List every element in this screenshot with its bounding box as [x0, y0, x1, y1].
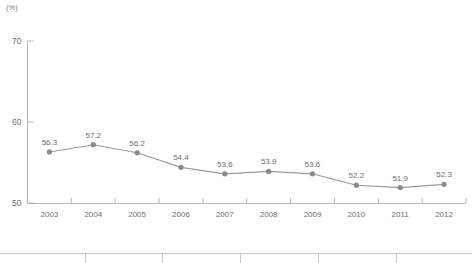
- data-point-marker: [47, 149, 52, 154]
- data-point-marker: [91, 142, 96, 147]
- x-tick-label: 2008: [260, 210, 278, 219]
- data-point-marker: [441, 182, 446, 187]
- data-point-marker: [266, 169, 271, 174]
- data-point-label: 54.4: [173, 153, 189, 162]
- x-tick-label: 2009: [304, 210, 322, 219]
- x-tick-label: 2012: [435, 210, 453, 219]
- data-point-label: 52.3: [436, 170, 452, 179]
- data-point-marker: [135, 150, 140, 155]
- series-line: [49, 145, 444, 188]
- data-point-label: 53.6: [305, 160, 321, 169]
- x-tick-label: 2003: [41, 210, 59, 219]
- data-point-label: 53.6: [217, 160, 233, 169]
- data-point-marker: [310, 171, 315, 176]
- data-point-label: 51.9: [392, 174, 408, 183]
- series-data-labels: 56.357.256.254.453.653.953.652.251.952.3: [42, 131, 453, 183]
- data-point-label: 56.3: [42, 138, 58, 147]
- y-axis-ticks: 506070: [12, 36, 33, 208]
- data-point-marker: [354, 183, 359, 188]
- data-point-marker: [398, 185, 403, 190]
- data-point-label: 56.2: [129, 139, 145, 148]
- y-tick-label: 70: [12, 36, 22, 46]
- x-tick-label: 2007: [216, 210, 234, 219]
- series-markers: [47, 142, 447, 190]
- x-axis-ticks: 2003200420052006200720082009201020112012: [41, 198, 466, 219]
- data-point-label: 57.2: [85, 131, 101, 140]
- data-point-label: 52.2: [349, 171, 365, 180]
- x-tick-label: 2005: [128, 210, 146, 219]
- data-point-marker: [178, 165, 183, 170]
- chart-plot-area: 506070 200320042005200620072008200920102…: [0, 0, 472, 263]
- x-tick-label: 2010: [347, 210, 365, 219]
- data-point-label: 53.9: [261, 157, 277, 166]
- x-tick-label: 2006: [172, 210, 190, 219]
- x-tick-label: 2004: [84, 210, 102, 219]
- x-tick-label: 2011: [392, 210, 410, 219]
- bottom-table: [0, 254, 472, 263]
- data-point-marker: [222, 171, 227, 176]
- y-tick-label: 50: [12, 198, 22, 208]
- line-chart: (%) 506070 20032004200520062007200820092…: [0, 0, 472, 263]
- y-tick-label: 60: [12, 117, 22, 127]
